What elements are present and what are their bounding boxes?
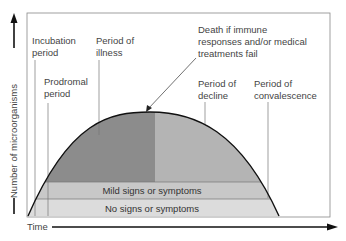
- y-axis-label: Number of microorganisms: [8, 84, 19, 198]
- none-band-label: No signs or symptoms: [105, 203, 199, 214]
- x-axis-label: Time: [27, 221, 48, 232]
- y-arrow-head-icon: [11, 13, 18, 23]
- x-arrow-head-icon: [327, 224, 338, 231]
- mild-band-label: Mild signs or symptoms: [102, 185, 201, 196]
- disease-stages-diagram: Incubation period Prodromal period Perio…: [0, 0, 346, 241]
